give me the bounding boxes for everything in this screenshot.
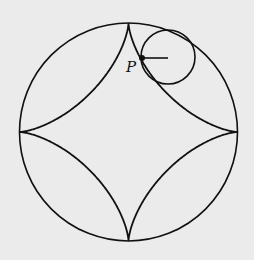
point-p-label: P [126,58,136,76]
astroid-curve [20,23,238,241]
astroid-diagram: P [0,0,254,260]
rolling-circle [141,30,195,84]
point-p-marker [139,55,145,61]
diagram-canvas [0,0,254,260]
fixed-circle [20,23,238,241]
